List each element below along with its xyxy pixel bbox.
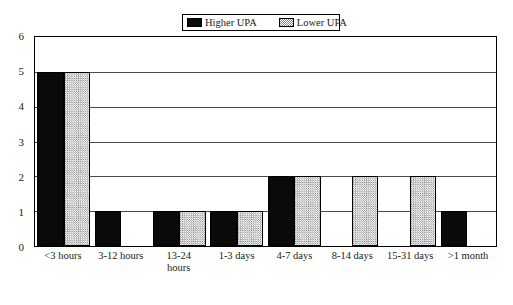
bar-group (35, 37, 93, 246)
legend-swatch-solid-black-icon (187, 18, 202, 27)
legend-swatch-stipple-gray-icon (279, 18, 294, 27)
bar-higher (153, 211, 180, 246)
bar-groups (35, 37, 496, 246)
bar-higher (441, 211, 468, 246)
x-axis-tick-label: 15-31 days (381, 250, 439, 274)
bar-higher (37, 72, 64, 246)
bar-group (381, 37, 439, 246)
y-axis-tick-label: 2 (19, 171, 25, 182)
y-axis: 0123456 (0, 36, 30, 247)
x-axis-tick-label: 3-12 hours (92, 250, 150, 274)
y-axis-tick-label: 4 (19, 101, 25, 112)
legend-entry-higher-upa: Higher UPA (187, 15, 257, 30)
bar-lower (179, 211, 206, 246)
bar-higher (210, 211, 237, 246)
bar-group (208, 37, 266, 246)
y-axis-tick-label: 0 (19, 242, 25, 253)
y-axis-tick-label: 1 (19, 206, 25, 217)
bar-group (438, 37, 496, 246)
x-axis-tick-label: >1 month (439, 250, 497, 274)
plot-area (34, 36, 497, 247)
bar-lower (64, 72, 91, 246)
legend-label-lower-upa: Lower UPA (297, 17, 347, 28)
bar-higher (268, 176, 295, 246)
x-axis-tick-label: 1-3 days (208, 250, 266, 274)
bar-lower (410, 176, 437, 246)
legend-label-higher-upa: Higher UPA (205, 17, 257, 28)
x-axis-tick-label: 8-14 days (323, 250, 381, 274)
bar-group (323, 37, 381, 246)
y-axis-tick-label: 6 (19, 31, 25, 42)
y-axis-tick-label: 3 (19, 136, 25, 147)
bar-lower (352, 176, 379, 246)
chart-legend: Higher UPA Lower UPA (182, 14, 340, 31)
bar-group (93, 37, 151, 246)
bar-group (266, 37, 324, 246)
x-axis-tick-label: 4-7 days (266, 250, 324, 274)
x-axis-tick-label: 13-24 hours (150, 250, 208, 274)
bar-group (150, 37, 208, 246)
bar-lower (237, 211, 264, 246)
bar-higher (95, 211, 122, 246)
x-axis-tick-label: <3 hours (34, 250, 92, 274)
bar-lower (294, 176, 321, 246)
x-axis: <3 hours3-12 hours13-24 hours1-3 days4-7… (34, 250, 497, 274)
legend-entry-lower-upa: Lower UPA (279, 15, 347, 30)
y-axis-tick-label: 5 (19, 66, 25, 77)
